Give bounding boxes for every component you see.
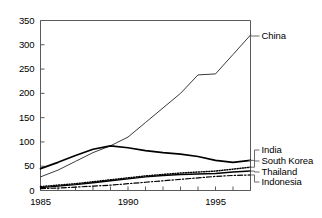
- y-axis-tick-label: 250: [0, 63, 35, 74]
- y-axis-tick-label: 0: [0, 185, 35, 196]
- series-label-india: India: [262, 144, 282, 155]
- y-axis-tick-label: 200: [0, 87, 35, 98]
- y-axis-tick-label: 350: [0, 15, 35, 26]
- series-label-indonesia: Indonesia: [262, 176, 302, 187]
- x-axis-tick-label: 1985: [11, 196, 71, 207]
- x-axis-tick-label: 1990: [98, 196, 158, 207]
- series-line-south-korea: [41, 146, 251, 169]
- series-label-south-korea: South Korea: [262, 155, 314, 166]
- series-line-thailand: [41, 171, 251, 188]
- y-axis-tick-label: 100: [0, 136, 35, 147]
- series-line-china: [41, 35, 251, 177]
- y-axis-tick-label: 300: [0, 39, 35, 50]
- y-axis-tick-label: 150: [0, 112, 35, 123]
- series-label-china: China: [262, 30, 286, 41]
- line-chart: 050100150200250300350198519901995ChinaIn…: [0, 0, 322, 218]
- y-axis-tick-label: 50: [0, 160, 35, 171]
- axis-frame: [41, 21, 251, 191]
- x-axis-tick-label: 1995: [186, 196, 246, 207]
